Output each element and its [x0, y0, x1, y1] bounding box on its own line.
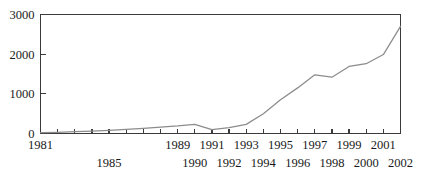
series-line — [41, 26, 401, 132]
x-axis-tick-labels-upper-row: 19811989199119931995199719992001 — [28, 138, 396, 152]
y-tick-label-1000: 1000 — [10, 87, 35, 101]
x-tick-label-2000: 2000 — [354, 156, 379, 170]
x-tick-label-1996: 1996 — [285, 156, 310, 170]
x-tick-label-1991: 1991 — [199, 138, 224, 152]
chart-canvas: 0100020003000 19811989199119931995199719… — [0, 0, 424, 188]
x-tick-label-2002: 2002 — [388, 156, 413, 170]
x-tick-label-1989: 1989 — [165, 138, 190, 152]
x-tick-label-1992: 1992 — [217, 156, 242, 170]
y-axis-tick-labels: 0100020003000 — [10, 8, 35, 141]
y-tick-label-2000: 2000 — [10, 48, 35, 62]
x-tick-label-1997: 1997 — [302, 138, 327, 152]
x-tick-label-1993: 1993 — [234, 138, 259, 152]
x-tick-label-1998: 1998 — [319, 156, 344, 170]
x-tick-label-1999: 1999 — [337, 138, 362, 152]
x-tick-label-1995: 1995 — [268, 138, 293, 152]
plot-frame — [41, 15, 401, 134]
line-chart: 0100020003000 19811989199119931995199719… — [0, 0, 424, 188]
x-tick-label-2001: 2001 — [371, 138, 396, 152]
y-tick-label-3000: 3000 — [10, 8, 35, 22]
data-series — [41, 26, 401, 132]
x-tick-label-1994: 1994 — [251, 156, 277, 170]
x-tick-label-1981: 1981 — [28, 138, 53, 152]
x-tick-label-1990: 1990 — [182, 156, 207, 170]
x-axis-tick-labels-lower-row: 19851990199219941996199820002002 — [97, 156, 413, 170]
x-tick-label-1985: 1985 — [97, 156, 122, 170]
